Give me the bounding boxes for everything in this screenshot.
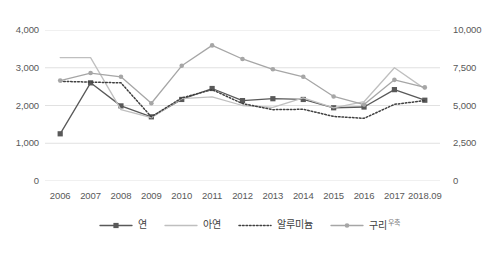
marker-구리-2006 xyxy=(58,78,63,83)
legend-label-연: 연 xyxy=(138,220,147,230)
marker-연-2017 xyxy=(392,87,397,92)
marker-구리-2007 xyxy=(88,71,93,76)
legend-swatch-아연 xyxy=(164,220,198,231)
y-right-tick-2500: 2,500 xyxy=(453,137,476,148)
y-right-tick-5000: 5,000 xyxy=(453,100,476,111)
y-right-tick-10000: 10,000 xyxy=(453,24,481,35)
legend-marker-연 xyxy=(113,223,118,228)
marker-구리-2018.09 xyxy=(423,85,428,90)
legend-item-알루미늄[interactable]: 알루미늄 xyxy=(238,220,313,231)
chart-legend: 연아연알루미늄구리우축 xyxy=(0,219,499,231)
y-right-tick-0: 0 xyxy=(453,175,458,186)
legend-label-알루미늄: 알루미늄 xyxy=(277,220,313,230)
y-left-tick-3000: 3,000 xyxy=(16,62,39,73)
marker-구리-2009 xyxy=(149,101,154,106)
legend-marker-구리 xyxy=(345,223,350,228)
marker-구리-2016 xyxy=(362,102,367,107)
legend-item-연[interactable]: 연 xyxy=(99,220,147,231)
legend-swatch-알루미늄 xyxy=(238,220,272,231)
marker-연-2013 xyxy=(270,96,275,101)
legend-item-아연[interactable]: 아연 xyxy=(164,220,221,231)
marker-구리-2008 xyxy=(119,75,124,80)
legend-item-구리[interactable]: 구리우축 xyxy=(330,219,400,231)
y-left-tick-1000: 1,000 xyxy=(16,137,39,148)
series-line-연 xyxy=(60,83,425,134)
marker-구리-2010 xyxy=(179,63,184,68)
line-chart: 01,0002,0003,0004,000 02,5005,0007,50010… xyxy=(0,0,499,255)
marker-구리-2012 xyxy=(240,57,245,62)
y-left-tick-2000: 2,000 xyxy=(16,100,39,111)
y-left-tick-4000: 4,000 xyxy=(16,24,39,35)
marker-구리-2015 xyxy=(331,94,336,99)
y-right-tick-7500: 7,500 xyxy=(453,62,476,73)
marker-연-2006 xyxy=(58,131,63,136)
legend-label-구리: 구리우축 xyxy=(369,219,400,231)
legend-swatch-연 xyxy=(99,220,133,231)
plot-svg xyxy=(45,30,440,181)
marker-구리-2011 xyxy=(210,43,215,48)
x-tick-2018.09: 2018.09 xyxy=(401,190,449,201)
marker-구리-2017 xyxy=(392,78,397,83)
legend-axis-note-구리: 우축 xyxy=(388,219,400,226)
marker-구리-2013 xyxy=(271,67,276,72)
series-line-아연 xyxy=(60,58,425,118)
plot-area xyxy=(45,30,440,181)
legend-label-아연: 아연 xyxy=(203,220,221,230)
legend-swatch-구리 xyxy=(330,220,364,231)
y-left-tick-0: 0 xyxy=(34,175,39,186)
marker-구리-2014 xyxy=(301,75,306,80)
